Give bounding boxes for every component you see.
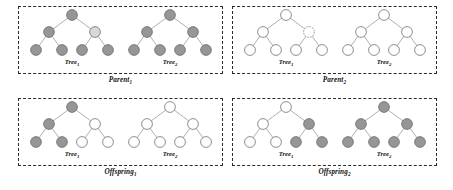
tree-label-subscript: 2: [175, 62, 177, 67]
tree-parent-1-tree-2: Tree2: [122, 6, 218, 74]
tree-parent-2-tree-2: Tree2: [336, 6, 432, 74]
tree-node-left-right: [271, 45, 282, 56]
tree-node-root: [67, 102, 78, 113]
panel-parent-1: Tree1Tree2: [18, 6, 223, 74]
tree-graph-offspring-2-tree-1: [238, 98, 334, 156]
tree-node-root: [165, 102, 176, 113]
tree-label-text: Tree: [65, 150, 77, 157]
tree-graph-offspring-2-tree-2: [336, 98, 432, 156]
tree-label-parent-2-tree-1: Tree1: [238, 58, 334, 67]
tree-node-left-right: [57, 45, 68, 56]
tree-node-right: [304, 27, 315, 38]
tree-node-left-left: [31, 137, 42, 148]
tree-node-right-left: [77, 45, 88, 56]
panel-offspring-2: Tree1Tree2: [232, 98, 437, 166]
tree-graph-parent-2-tree-1: [238, 6, 334, 64]
panel-caption-text: Offspring: [318, 168, 348, 176]
tree-node-right-right: [415, 137, 426, 148]
tree-node-left-right: [57, 137, 68, 148]
tree-node-right: [90, 119, 101, 130]
tree-node-root: [67, 10, 78, 21]
panel-caption-text: Offspring: [104, 168, 134, 176]
tree-node-left-left: [245, 45, 256, 56]
panel-parent-2: Tree1Tree2: [232, 6, 437, 74]
panel-caption-subscript: 2: [348, 171, 351, 177]
tree-node-left: [356, 27, 367, 38]
tree-node-left-left: [245, 137, 256, 148]
tree-node-right-left: [175, 137, 186, 148]
tree-node-right-left: [291, 137, 302, 148]
tree-label-text: Tree: [65, 58, 77, 65]
tree-label-subscript: 1: [77, 154, 79, 159]
tree-node-right-left: [175, 45, 186, 56]
tree-node-root: [281, 102, 292, 113]
tree-node-left-left: [31, 45, 42, 56]
tree-node-root: [379, 10, 390, 21]
tree-node-right: [188, 119, 199, 130]
tree-label-subscript: 1: [291, 154, 293, 159]
tree-node-right-right: [103, 137, 114, 148]
tree-label-parent-1-tree-2: Tree2: [122, 58, 218, 67]
tree-label-subscript: 2: [389, 62, 391, 67]
panel-caption-subscript: 2: [343, 79, 346, 85]
tree-label-parent-2-tree-2: Tree2: [336, 58, 432, 67]
tree-offspring-2-tree-2: Tree2: [336, 98, 432, 166]
crossover-figure: Tree1Tree2Parent1Tree1Tree2Parent2Tree1T…: [0, 0, 453, 190]
tree-label-text: Tree: [163, 58, 175, 65]
panel-offspring-1: Tree1Tree2: [18, 98, 223, 166]
tree-label-offspring-2-tree-2: Tree2: [336, 150, 432, 159]
panel-caption-text: Parent: [109, 76, 130, 84]
tree-offspring-1-tree-2: Tree2: [122, 98, 218, 166]
tree-node-left: [258, 119, 269, 130]
tree-node-left-left: [343, 45, 354, 56]
tree-node-right-right: [201, 137, 212, 148]
tree-node-root: [165, 10, 176, 21]
tree-node-right-right: [317, 45, 328, 56]
tree-label-offspring-1-tree-1: Tree1: [24, 150, 120, 159]
tree-node-right: [402, 119, 413, 130]
tree-label-subscript: 2: [389, 154, 391, 159]
panel-caption-offspring-1: Offspring1: [18, 168, 223, 177]
tree-node-right-right: [103, 45, 114, 56]
tree-node-left: [44, 119, 55, 130]
tree-node-left: [356, 119, 367, 130]
panel-caption-subscript: 1: [129, 79, 132, 85]
panel-caption-parent-1: Parent1: [18, 76, 223, 85]
tree-graph-parent-1-tree-2: [122, 6, 218, 64]
panel-caption-parent-2: Parent2: [232, 76, 437, 85]
tree-node-left-right: [369, 45, 380, 56]
tree-node-right-right: [201, 45, 212, 56]
tree-node-left: [44, 27, 55, 38]
tree-label-offspring-2-tree-1: Tree1: [238, 150, 334, 159]
tree-node-right-right: [415, 45, 426, 56]
tree-label-parent-1-tree-1: Tree1: [24, 58, 120, 67]
tree-label-text: Tree: [377, 58, 389, 65]
tree-node-left: [142, 119, 153, 130]
panel-caption-subscript: 1: [134, 171, 137, 177]
tree-node-right: [90, 27, 101, 38]
tree-label-text: Tree: [279, 150, 291, 157]
tree-node-root: [379, 102, 390, 113]
panel-caption-offspring-2: Offspring2: [232, 168, 437, 177]
tree-node-left-left: [129, 45, 140, 56]
tree-label-offspring-1-tree-2: Tree2: [122, 150, 218, 159]
tree-offspring-2-tree-1: Tree1: [238, 98, 334, 166]
tree-node-left: [258, 27, 269, 38]
tree-node-right-right: [317, 137, 328, 148]
tree-label-subscript: 2: [175, 154, 177, 159]
tree-node-left-left: [129, 137, 140, 148]
tree-parent-2-tree-1: Tree1: [238, 6, 334, 74]
tree-label-text: Tree: [163, 150, 175, 157]
tree-node-left-right: [155, 45, 166, 56]
tree-node-right-left: [389, 45, 400, 56]
tree-offspring-1-tree-1: Tree1: [24, 98, 120, 166]
tree-label-text: Tree: [279, 58, 291, 65]
tree-node-left-right: [155, 137, 166, 148]
tree-graph-parent-1-tree-1: [24, 6, 120, 64]
tree-node-right-left: [389, 137, 400, 148]
panel-caption-text: Parent: [323, 76, 344, 84]
tree-label-subscript: 1: [291, 62, 293, 67]
tree-node-left-left: [343, 137, 354, 148]
tree-node-right: [304, 119, 315, 130]
tree-graph-parent-2-tree-2: [336, 6, 432, 64]
